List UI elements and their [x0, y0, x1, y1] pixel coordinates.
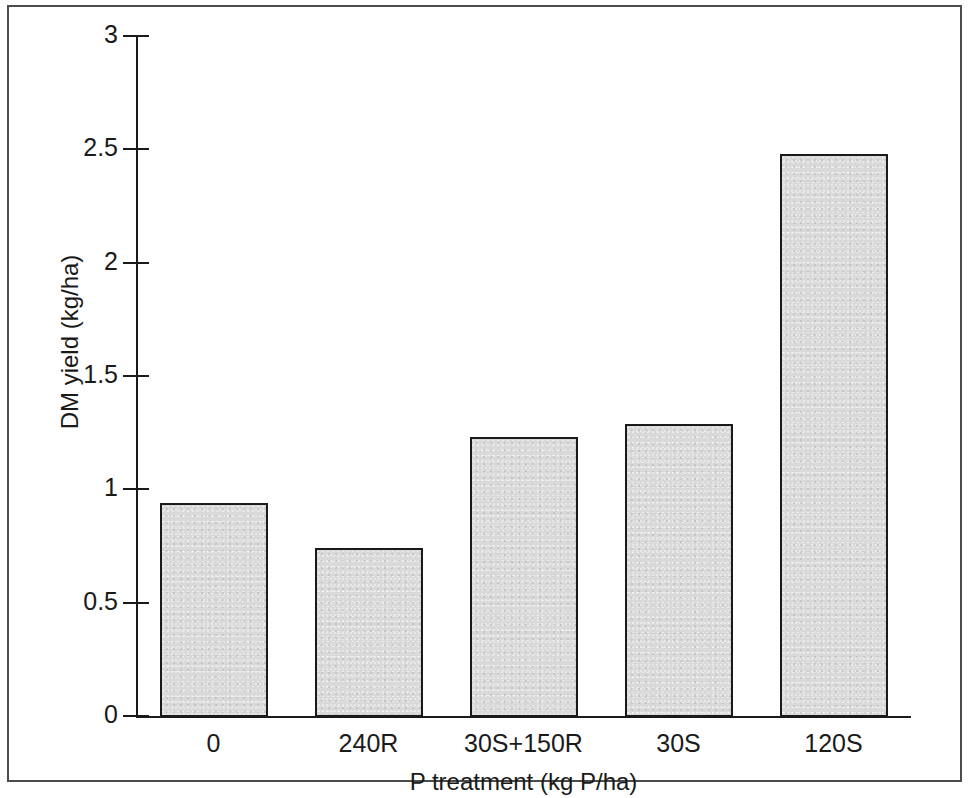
bar [470, 437, 578, 717]
y-axis-title: DM yield (kg/ha) [58, 212, 82, 472]
y-tick-mark [123, 375, 149, 377]
y-tick-mark [123, 262, 149, 264]
y-tick-label: 1 [40, 475, 118, 500]
x-tick-label: 120S [756, 731, 911, 756]
y-tick-mark [123, 35, 149, 37]
x-axis-title: P treatment (kg P/ha) [136, 770, 911, 794]
bar [625, 424, 733, 717]
y-tick-mark [123, 715, 149, 717]
bar-chart: 00.511.522.53 0240R30S+150R30S120S P tre… [0, 0, 978, 798]
bar [315, 548, 423, 717]
bar [160, 503, 268, 717]
x-tick-label: 30S+150R [446, 731, 601, 756]
y-tick-label: 0 [40, 702, 118, 727]
y-tick-label: 2.5 [40, 135, 118, 160]
y-axis-line [136, 36, 138, 718]
y-tick-mark [123, 602, 149, 604]
y-tick-label: 0.5 [40, 589, 118, 614]
x-tick-label: 30S [601, 731, 756, 756]
x-tick-label: 240R [291, 731, 446, 756]
y-tick-label: 3 [40, 22, 118, 47]
y-tick-mark [123, 488, 149, 490]
x-tick-label: 0 [136, 731, 291, 756]
bar [780, 154, 888, 717]
y-tick-mark [123, 148, 149, 150]
